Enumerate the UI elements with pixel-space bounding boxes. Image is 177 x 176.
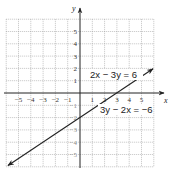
y-tick: −2 [70,114,78,122]
y-tick: −1 [70,102,78,110]
x-tick-labels: −5 −4 −3 −2 −1 1 2 3 4 5 [15,96,144,104]
y-tick: 3 [74,53,78,61]
x-tick: −5 [15,96,23,104]
y-tick: −3 [70,126,78,134]
equation-label-2: 3y − 2x = −6 [100,104,153,115]
y-tick: 5 [74,28,78,36]
x-tick: 5 [140,96,144,104]
x-tick: 3 [115,96,119,104]
x-tick: 4 [127,96,131,104]
x-tick: 1 [91,96,95,104]
x-tick: −2 [52,96,60,104]
x-tick: −4 [27,96,35,104]
y-tick: 4 [74,40,78,48]
equation-label-1: 2x − 3y = 6 [90,69,137,80]
x-tick: −3 [39,96,47,104]
y-tick: −5 [70,151,78,159]
y-axis-label: y [71,4,76,13]
y-tick: 2 [74,65,78,73]
y-tick: −4 [70,139,78,147]
x-axis-label: x [163,96,168,105]
coordinate-plane: x y −5 −4 −3 −2 −1 1 2 3 4 5 5 4 3 2 1 −… [0,0,177,176]
y-tick: 1 [74,77,78,85]
